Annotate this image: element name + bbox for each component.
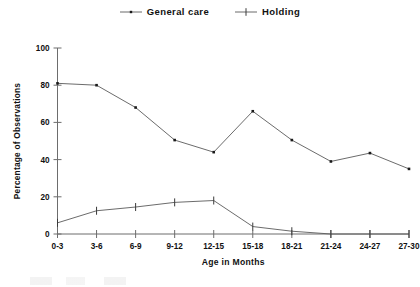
data-point-marker	[173, 139, 176, 142]
data-point-marker	[330, 160, 333, 163]
x-tick-label: 27-30	[399, 242, 420, 251]
series-holding	[58, 197, 410, 238]
data-point-marker	[56, 82, 59, 85]
x-axis-title: Age in Months	[202, 257, 265, 267]
y-tick-label: 80	[40, 81, 50, 90]
y-tick-label: 0	[45, 230, 50, 239]
x-tick-label: 9-12	[166, 242, 183, 251]
data-point-marker	[369, 152, 372, 155]
y-tick-label: 20	[40, 193, 50, 202]
data-series-layer	[56, 82, 410, 238]
data-point-marker	[95, 84, 98, 87]
data-point-marker	[134, 106, 137, 109]
x-tick-label: 21-24	[320, 242, 341, 251]
x-tick-label: 24-27	[359, 242, 380, 251]
x-tick-label: 3-6	[91, 242, 103, 251]
data-point-marker	[408, 168, 411, 171]
chart-canvas: 020406080100 0-33-66-99-1212-1515-1818-2…	[0, 0, 420, 287]
y-axis-title: Percentage of Observations	[12, 83, 22, 200]
x-tick-label: 6-9	[130, 242, 142, 251]
series-general-care	[56, 82, 410, 170]
y-tick-label: 40	[40, 156, 50, 165]
x-axis-ticks: 0-33-66-99-1212-1515-1818-2121-2424-2727…	[52, 230, 420, 251]
data-point-marker	[212, 151, 215, 154]
data-point-marker	[291, 139, 294, 142]
data-point-marker	[251, 110, 254, 113]
line-chart: 020406080100 0-33-66-99-1212-1515-1818-2…	[0, 0, 420, 287]
x-tick-label: 15-18	[242, 242, 263, 251]
y-tick-label: 60	[40, 118, 50, 127]
y-tick-label: 100	[36, 44, 50, 53]
x-tick-label: 0-3	[52, 242, 64, 251]
page-artifact	[30, 277, 150, 285]
x-tick-label: 12-15	[203, 242, 224, 251]
x-tick-label: 18-21	[281, 242, 302, 251]
